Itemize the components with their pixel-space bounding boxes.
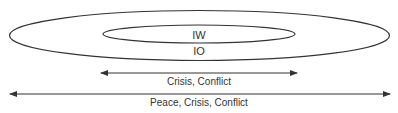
inner-ellipse-iw: IW <box>103 25 295 43</box>
iw-label: IW <box>192 29 206 41</box>
peace-crisis-conflict-label: Peace, Crisis, Conflict <box>150 97 248 108</box>
io-iw-diagram: IO IW Crisis, Conflict Peace, Crisis, Co… <box>0 0 398 113</box>
crisis-conflict-arrow: Crisis, Conflict <box>101 73 297 87</box>
crisis-conflict-label: Crisis, Conflict <box>167 76 231 87</box>
io-label: IO <box>193 45 205 57</box>
peace-crisis-conflict-arrow: Peace, Crisis, Conflict <box>10 94 390 108</box>
